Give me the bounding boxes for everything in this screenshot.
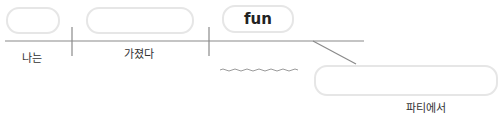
modifier-label: 파티에서 — [406, 99, 446, 113]
modifier-diagonal — [313, 41, 356, 64]
object-box[interactable]: fun — [222, 5, 294, 33]
verb-box[interactable] — [86, 7, 194, 34]
verb-label: 가졌다 — [124, 45, 154, 61]
wavy-underline — [220, 69, 298, 71]
subject-box[interactable] — [6, 7, 60, 34]
modifier-box[interactable] — [314, 65, 498, 96]
subject-label: 나는 — [22, 49, 42, 65]
